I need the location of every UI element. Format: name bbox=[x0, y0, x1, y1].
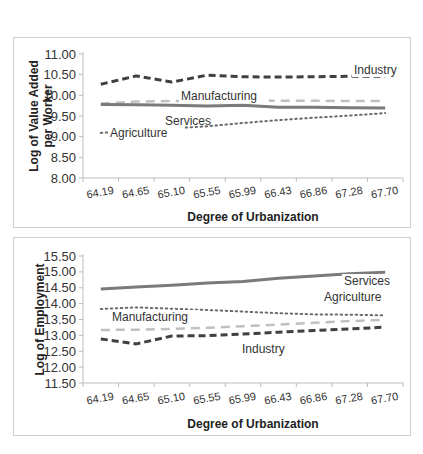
x-axis-title: Degree of Urbanization bbox=[187, 417, 318, 431]
x-tick-label: 67.70 bbox=[370, 390, 399, 407]
y-tick-label: 8.50 bbox=[51, 150, 76, 165]
y-tick-label: 12.50 bbox=[43, 344, 76, 359]
x-tick-label: 65.10 bbox=[157, 390, 186, 407]
x-tick-label: 64.19 bbox=[85, 390, 114, 407]
series-label-agriculture: Agriculture bbox=[324, 290, 382, 304]
x-tick-label: 66.86 bbox=[299, 184, 328, 201]
y-tick-label: 13.50 bbox=[43, 312, 76, 327]
x-tick-label: 66.86 bbox=[299, 390, 328, 407]
y-tick-label: 14.50 bbox=[43, 280, 76, 295]
series-label-industry: Industry bbox=[242, 342, 285, 356]
series-line-industry bbox=[101, 75, 385, 84]
series-label-services: Services bbox=[344, 274, 390, 288]
x-tick-label: 66.43 bbox=[263, 184, 292, 201]
y-axis-title: Log of Employment bbox=[33, 264, 47, 376]
x-tick-label: 65.55 bbox=[192, 184, 221, 201]
x-tick-label: 64.65 bbox=[121, 390, 150, 407]
y-tick-label: 12.00 bbox=[43, 360, 76, 375]
x-tick-label: 65.55 bbox=[192, 390, 221, 407]
x-tick-label: 67.28 bbox=[334, 184, 363, 201]
y-tick-label: 14.00 bbox=[43, 296, 76, 311]
x-tick-label: 66.43 bbox=[263, 390, 292, 407]
series-line-services bbox=[101, 104, 385, 108]
y-tick-label: 8.00 bbox=[51, 171, 76, 186]
x-tick-label: 65.99 bbox=[228, 184, 257, 201]
series-label-industry: Industry bbox=[354, 63, 397, 77]
x-axis-title: Degree of Urbanization bbox=[187, 210, 318, 224]
line-chart: 11.0010.5010.009.509.008.508.0064.1964.6… bbox=[14, 38, 412, 229]
series-label-manufacturing: Manufacturing bbox=[181, 89, 257, 103]
y-tick-label: 11.00 bbox=[44, 47, 76, 62]
line-chart: 15.5015.0014.5014.0013.5013.0012.5012.00… bbox=[14, 238, 412, 437]
series-label-manufacturing: Manufacturing bbox=[112, 310, 188, 324]
series-label-agriculture: Agriculture bbox=[110, 126, 168, 140]
x-tick-label: 67.70 bbox=[370, 184, 399, 201]
chart-panel-employment: 15.5015.0014.5014.0013.5013.0012.5012.00… bbox=[13, 237, 411, 436]
y-tick-label: 10.50 bbox=[43, 67, 76, 82]
y-tick-label: 15.00 bbox=[43, 264, 76, 279]
x-tick-label: 65.99 bbox=[228, 390, 257, 407]
x-tick-label: 64.65 bbox=[121, 184, 150, 201]
x-tick-label: 64.19 bbox=[85, 184, 114, 201]
y-tick-label: 11.50 bbox=[44, 376, 76, 391]
y-tick-label: 13.00 bbox=[43, 328, 76, 343]
x-tick-label: 67.28 bbox=[334, 390, 363, 407]
x-tick-label: 65.10 bbox=[157, 184, 186, 201]
chart-panel-value-added: 11.0010.5010.009.509.008.508.0064.1964.6… bbox=[13, 37, 411, 228]
series-label-services: Services bbox=[165, 114, 211, 128]
y-tick-label: 15.50 bbox=[43, 249, 76, 264]
